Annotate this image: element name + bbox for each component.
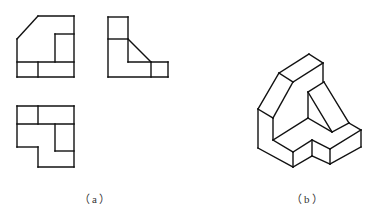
edge-line (128, 39, 151, 62)
edge-line (312, 140, 330, 149)
edge-line (309, 54, 323, 63)
edge-line (332, 123, 349, 132)
edge-line (308, 82, 324, 92)
side-view (108, 17, 168, 77)
edge-line (273, 82, 293, 118)
top-view (17, 106, 74, 167)
edge-line (330, 130, 361, 149)
edge-line (293, 156, 312, 167)
edge-line (293, 140, 312, 152)
edge-line (312, 156, 330, 164)
edge-line (349, 123, 361, 130)
edge-line (273, 118, 308, 140)
isometric-view (258, 54, 361, 167)
edge-line (279, 73, 293, 82)
edge-line (293, 63, 323, 82)
caption-a: （a） (79, 190, 112, 206)
edge-line (308, 92, 332, 132)
edge-line (330, 147, 361, 164)
front-view (17, 16, 74, 77)
figure-canvas (0, 0, 373, 211)
edge-line (17, 16, 38, 39)
edge-line (258, 73, 279, 109)
edge-line (324, 82, 349, 123)
caption-b: （b） (291, 190, 325, 206)
edge-line (279, 54, 309, 73)
edge-line (258, 148, 293, 167)
edge-line (258, 109, 273, 118)
edge-line (273, 140, 293, 152)
